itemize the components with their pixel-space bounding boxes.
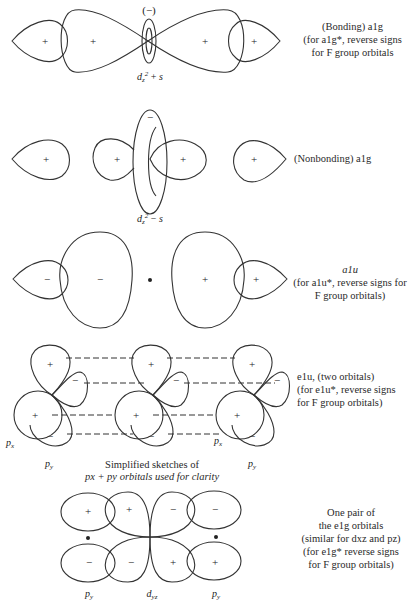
svg-text:+: + xyxy=(202,35,208,47)
svg-text:+: + xyxy=(202,273,208,285)
dyz-label: dyz xyxy=(147,588,158,601)
px-label: px xyxy=(5,437,15,450)
svg-text:−: − xyxy=(47,430,53,442)
py-label: py xyxy=(44,458,54,471)
px-label: px xyxy=(213,435,223,448)
e1u-caption: e1u, (two orbitals) (for e1u*, reverse s… xyxy=(297,370,407,409)
svg-text:+: + xyxy=(251,35,257,47)
svg-text:−: − xyxy=(212,503,218,515)
svg-text:+: + xyxy=(170,556,176,568)
torus-sign: (−) xyxy=(142,4,156,17)
svg-text:−: − xyxy=(128,556,134,568)
e1u-sketch-caption: Simplified sketches of px + py orbitals … xyxy=(84,459,220,483)
svg-text:+: + xyxy=(133,409,139,421)
svg-text:+: + xyxy=(249,358,255,370)
orbital-label: dz2 − s xyxy=(137,212,163,226)
svg-text:−: − xyxy=(170,503,176,515)
svg-text:−: − xyxy=(274,374,280,386)
a1g-bonding-diagram: (−) + + + + dz2 + s xyxy=(12,4,280,84)
svg-text:+: + xyxy=(253,273,259,285)
a1u-caption: a1u (for a1u*, reverse signs for F group… xyxy=(293,263,407,302)
svg-text:+: + xyxy=(42,35,48,47)
svg-text:−: − xyxy=(97,273,103,285)
svg-text:+: + xyxy=(85,505,91,517)
svg-text:+: + xyxy=(47,358,53,370)
svg-text:+: + xyxy=(148,358,154,370)
e1g-caption: One pair of the e1g orbitals (similar fo… xyxy=(295,506,407,571)
svg-text:+: + xyxy=(90,35,96,47)
svg-text:−: − xyxy=(249,430,255,442)
a1g-nonbonding-diagram: − + + + + dz2 − s xyxy=(12,110,286,226)
a1g-bonding-caption: (Bonding) a1g (for a1g*, reverse signs f… xyxy=(295,20,410,59)
py-label: py xyxy=(211,588,221,601)
svg-text:+: + xyxy=(251,153,257,165)
svg-text:+: + xyxy=(234,409,240,421)
svg-text:+: + xyxy=(126,503,132,515)
svg-text:−: − xyxy=(148,430,154,442)
py-label: py xyxy=(84,588,94,601)
e1u-left-group: + − + − xyxy=(14,345,88,446)
svg-text:−: − xyxy=(173,374,179,386)
orbital-label: dz2 + s xyxy=(137,70,163,84)
e1g-diagram: + + − − − − + + py dyz py xyxy=(61,491,241,601)
svg-text:+: + xyxy=(43,153,49,165)
torus-sign: − xyxy=(147,111,153,123)
svg-text:+: + xyxy=(114,153,120,165)
svg-text:−: − xyxy=(44,273,50,285)
a1u-diagram: − − + + xyxy=(13,232,287,328)
e1u-diagram: + − + − + − + − + − + − xyxy=(5,345,290,471)
svg-text:−: − xyxy=(86,556,92,568)
e1u-right-group: + − + − xyxy=(216,345,290,446)
svg-text:+: + xyxy=(32,409,38,421)
py-label: py xyxy=(247,458,257,471)
a1g-nonbonding-caption: (Nonbonding) a1g xyxy=(294,152,407,165)
svg-text:+: + xyxy=(212,556,218,568)
svg-text:+: + xyxy=(180,153,186,165)
svg-text:−: − xyxy=(72,374,78,386)
e1u-center-group: + − + − xyxy=(115,345,189,446)
